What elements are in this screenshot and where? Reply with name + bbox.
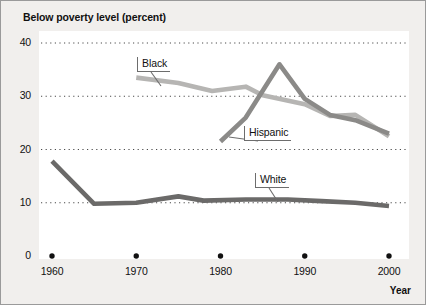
x-axis-markers-group <box>49 253 391 258</box>
x-axis-marker-dot <box>302 253 307 258</box>
x-axis-tick-label: 1980 <box>199 265 243 277</box>
chart-figure: Below poverty level (percent) 010203040 … <box>0 0 426 305</box>
x-axis-marker-dot <box>134 253 139 258</box>
chart-canvas <box>1 1 426 305</box>
x-axis-title: Year <box>390 285 411 296</box>
x-axis-tick-label: 2000 <box>367 265 411 277</box>
x-axis-tick-label: 1970 <box>114 265 158 277</box>
x-axis-marker-dot <box>386 253 391 258</box>
y-axis-tick-label: 0 <box>5 249 31 261</box>
x-axis-tick-label: 1960 <box>30 265 74 277</box>
y-axis-tick-label: 40 <box>5 36 31 48</box>
x-axis-tick-label: 1990 <box>283 265 327 277</box>
gridlines-group <box>41 43 407 203</box>
series-lines-group <box>52 64 389 206</box>
x-axis-marker-dot <box>49 253 54 258</box>
y-axis-tick-label: 20 <box>5 143 31 155</box>
series-line-white <box>52 161 389 206</box>
series-callout-black: Black <box>137 57 170 72</box>
y-axis-tick-label: 30 <box>5 89 31 101</box>
series-callout-white: White <box>255 173 289 188</box>
x-axis-marker-dot <box>218 253 223 258</box>
series-callout-hispanic: Hispanic <box>244 126 291 141</box>
y-axis-tick-label: 10 <box>5 196 31 208</box>
